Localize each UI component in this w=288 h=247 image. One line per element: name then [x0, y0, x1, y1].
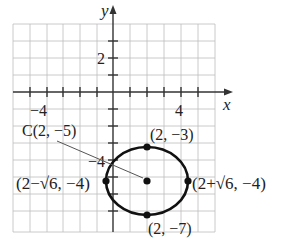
top-point [143, 143, 150, 150]
axes [13, 10, 228, 232]
left-point-label: (2−√6, −4) [16, 174, 90, 193]
y-axis-arrow-icon [110, 5, 117, 14]
center-label: C(2, −5) [22, 122, 76, 140]
bottom-point-label: (2, −7) [148, 220, 192, 238]
x-tick-label-4: 4 [175, 102, 183, 119]
coordinate-graph: y x −4 4 2 −4 C(2, −5) (2, −3) (2, −7) (… [0, 0, 288, 247]
y-tick-label-2: 2 [97, 50, 105, 67]
right-point [184, 177, 191, 184]
left-point [102, 177, 109, 184]
x-axis-label: x [222, 95, 231, 114]
y-axis-label: y [99, 1, 109, 20]
x-tick-label-neg4: −4 [30, 102, 47, 119]
top-point-label: (2, −3) [150, 126, 194, 144]
right-point-label: (2+√6, −4) [192, 174, 266, 193]
center-point [143, 177, 150, 184]
bottom-point [143, 211, 150, 218]
